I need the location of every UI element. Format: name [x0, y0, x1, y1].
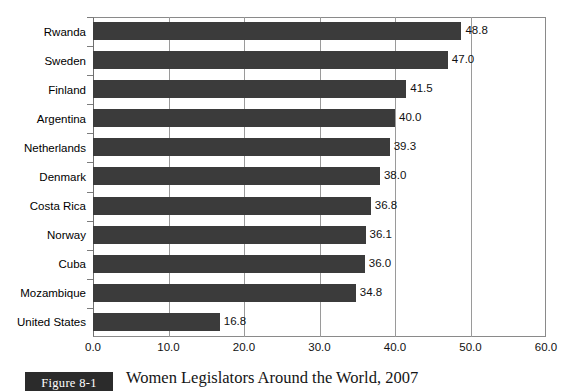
x-axis-tick-label: 0.0	[63, 341, 123, 353]
bar[interactable]	[93, 167, 380, 185]
bar-row: 36.1	[93, 221, 546, 250]
x-axis-tick-labels: 0.010.020.030.040.050.060.0	[0, 341, 577, 359]
bar[interactable]	[93, 22, 461, 40]
bar[interactable]	[93, 197, 371, 215]
y-axis-label: Cuba	[0, 257, 86, 271]
y-axis-label: Norway	[0, 228, 86, 242]
figure-caption: Figure 8-1 Women Legislators Around the …	[0, 366, 577, 389]
x-axis-tick-label: 20.0	[214, 341, 274, 353]
bar-value-label: 34.8	[360, 285, 382, 300]
bar-value-label: 39.3	[394, 139, 416, 154]
bar-row: 47.0	[93, 46, 546, 75]
y-axis-label: Mozambique	[0, 286, 86, 300]
figure-caption-title: Women Legislators Around the World, 2007	[126, 368, 418, 388]
y-axis-label: Finland	[0, 83, 86, 97]
bar-value-label: 36.1	[370, 227, 392, 242]
bar-row: 16.8	[93, 308, 546, 337]
bar-row: 36.8	[93, 192, 546, 221]
bar-row: 48.8	[93, 17, 546, 46]
y-axis-category-labels: RwandaSwedenFinlandArgentinaNetherlandsD…	[0, 17, 86, 337]
bar-row: 38.0	[93, 162, 546, 191]
bar[interactable]	[93, 109, 395, 127]
bar-row: 39.3	[93, 133, 546, 162]
bar-value-label: 36.8	[375, 198, 397, 213]
y-axis-label: Rwanda	[0, 25, 86, 39]
bar[interactable]	[93, 255, 365, 273]
x-axis-tick-label: 40.0	[365, 341, 425, 353]
x-axis-tick-label: 60.0	[516, 341, 576, 353]
bar[interactable]	[93, 313, 220, 331]
bar-row: 36.0	[93, 250, 546, 279]
bar[interactable]	[93, 226, 366, 244]
bar-row: 41.5	[93, 75, 546, 104]
x-axis-tick-label: 30.0	[290, 341, 350, 353]
y-axis-label: Costa Rica	[0, 199, 86, 213]
bar[interactable]	[93, 51, 448, 69]
y-axis-label: Sweden	[0, 54, 86, 68]
y-axis-label: Argentina	[0, 112, 86, 126]
bar-value-label: 40.0	[399, 110, 421, 125]
bar[interactable]	[93, 138, 390, 156]
x-axis-tick-label: 10.0	[139, 341, 199, 353]
y-axis-label: Netherlands	[0, 141, 86, 155]
bar-row: 40.0	[93, 104, 546, 133]
x-axis-tick-label: 50.0	[441, 341, 501, 353]
figure-number-badge: Figure 8-1	[25, 372, 113, 391]
bars-layer: 48.847.041.540.039.338.036.836.136.034.8…	[93, 17, 546, 337]
bar[interactable]	[93, 80, 406, 98]
bar[interactable]	[93, 284, 356, 302]
y-axis-label: Denmark	[0, 170, 86, 184]
y-axis-label: United States	[0, 315, 86, 329]
bar-value-label: 48.8	[465, 23, 487, 38]
bar-value-label: 38.0	[384, 168, 406, 183]
bar-value-label: 41.5	[410, 81, 432, 96]
bar-value-label: 36.0	[369, 256, 391, 271]
bar-row: 34.8	[93, 279, 546, 308]
bar-value-label: 16.8	[224, 314, 246, 329]
bar-value-label: 47.0	[452, 52, 474, 67]
